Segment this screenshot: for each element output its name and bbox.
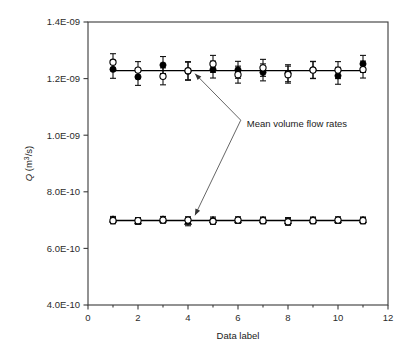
marker-lower-open-circle-4 (185, 217, 191, 223)
marker-upper-open-circle-9 (310, 67, 316, 73)
marker-upper-open-circle-8 (285, 72, 291, 78)
scatter-plot: 024681012 4.0E-106.0E-108.0E-101.0E-091.… (0, 0, 409, 364)
annotation-labels: Mean volume flow rates (247, 118, 348, 129)
figure-container: 024681012 4.0E-106.0E-108.0E-101.0E-091.… (0, 0, 409, 364)
marker-lower-open-circle-6 (235, 217, 241, 223)
marker-lower-open-circle-2 (135, 218, 141, 224)
y-tick-label-4: 1.2E-09 (47, 73, 80, 84)
marker-upper-open-circle-7 (260, 65, 266, 71)
marker-lower-open-circle-1 (110, 218, 116, 224)
marker-upper-filled-circle-3 (160, 62, 166, 68)
y-tick-label-5: 1.4E-09 (47, 16, 80, 27)
marker-lower-open-circle-5 (210, 218, 216, 224)
x-tick-label-0: 0 (85, 312, 90, 323)
marker-lower-open-circle-8 (285, 219, 291, 225)
marker-upper-open-circle-1 (110, 59, 116, 65)
annotation-label-1: Mean volume flow rates (247, 118, 348, 129)
x-tick-label-10: 10 (333, 312, 344, 323)
marker-lower-open-circle-11 (360, 218, 366, 224)
marker-upper-open-circle-4 (185, 68, 191, 74)
marker-lower-open-circle-7 (260, 218, 266, 224)
marker-lower-open-circle-10 (335, 217, 341, 223)
y-axis-title: Q (m3/s) (23, 146, 35, 181)
marker-upper-open-circle-2 (135, 67, 141, 73)
x-tick-label-8: 8 (285, 312, 290, 323)
marker-upper-open-circle-6 (235, 72, 241, 78)
marker-upper-open-circle-11 (360, 66, 366, 72)
marker-lower-open-circle-3 (160, 217, 166, 223)
marker-upper-filled-circle-2 (135, 74, 141, 80)
marker-upper-open-circle-10 (335, 67, 341, 73)
marker-upper-filled-circle-1 (110, 66, 116, 72)
x-tick-label-2: 2 (135, 312, 140, 323)
marker-lower-open-circle-9 (310, 218, 316, 224)
y-tick-label-2: 8.0E-10 (47, 186, 80, 197)
y-tick-label-3: 1.0E-09 (47, 130, 80, 141)
x-axis-title: Data label (217, 330, 260, 341)
y-tick-label-0: 4.0E-10 (47, 299, 80, 310)
x-tick-label-4: 4 (185, 312, 190, 323)
y-tick-label-1: 6.0E-10 (47, 243, 80, 254)
x-tick-label-12: 12 (383, 312, 394, 323)
x-tick-label-6: 6 (235, 312, 240, 323)
marker-upper-open-circle-3 (160, 73, 166, 79)
marker-upper-open-circle-5 (210, 61, 216, 67)
